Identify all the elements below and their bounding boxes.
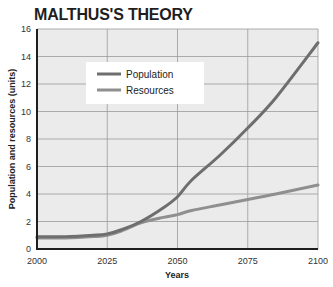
- y-tick-label: 10: [21, 107, 31, 117]
- x-axis-label: Years: [165, 270, 189, 280]
- y-axis-ticks: 0246810121416: [21, 24, 31, 254]
- x-tick-label: 2000: [27, 256, 47, 266]
- legend: Population Resources: [86, 62, 204, 104]
- x-tick-label: 2100: [308, 256, 328, 266]
- y-tick-label: 8: [26, 134, 31, 144]
- y-tick-label: 16: [21, 24, 31, 34]
- x-axis-ticks: 20002025205020752100: [27, 256, 328, 266]
- y-axis-label: Population and resources (units): [7, 69, 17, 210]
- y-tick-label: 12: [21, 79, 31, 89]
- x-tick-label: 2025: [97, 256, 117, 266]
- legend-label-resources: Resources: [126, 85, 174, 96]
- y-tick-label: 6: [26, 162, 31, 172]
- y-tick-label: 2: [26, 217, 31, 227]
- legend-label-population: Population: [126, 69, 173, 80]
- y-tick-label: 4: [26, 189, 31, 199]
- x-tick-label: 2050: [167, 256, 187, 266]
- x-tick-label: 2075: [238, 256, 258, 266]
- y-tick-label: 14: [21, 52, 31, 62]
- y-tick-label: 0: [26, 244, 31, 254]
- line-chart: 20002025205020752100 0246810121416 Years…: [0, 0, 333, 287]
